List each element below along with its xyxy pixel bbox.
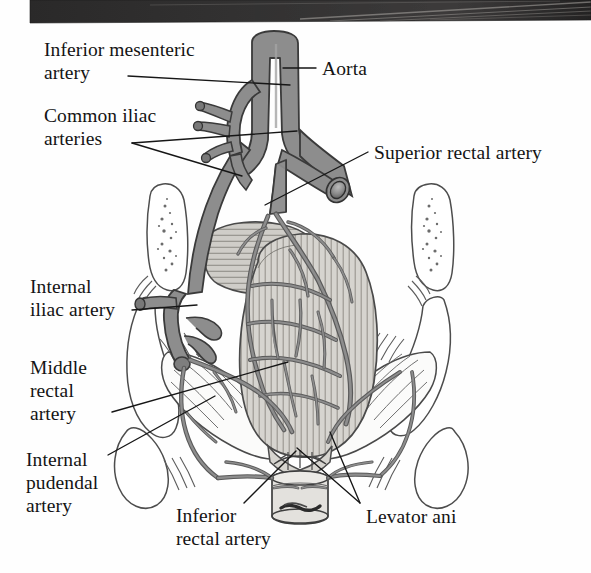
label-line: arteries	[44, 127, 156, 150]
label-line: rectal	[30, 379, 87, 402]
label-superior-rectal-artery: Superior rectal artery	[374, 141, 542, 164]
label-inferior-mesenteric-artery: Inferior mesentericartery	[44, 38, 195, 84]
scan-edge-band	[30, 0, 591, 23]
label-line: Inferior	[176, 504, 271, 527]
label-internal-pudendal-artery: Internalpudendalartery	[26, 448, 98, 517]
bone-right-upper	[412, 184, 454, 291]
label-inferior-rectal-artery: Inferiorrectal artery	[176, 504, 271, 550]
label-line: Common iliac	[44, 104, 156, 127]
bone-left-upper	[147, 184, 188, 291]
label-line: Aorta	[322, 57, 367, 80]
label-line: Internal	[26, 448, 98, 471]
label-line: artery	[44, 61, 195, 84]
figure-canvas: Inferior mesentericarteryAortaCommon ili…	[0, 0, 591, 573]
label-levator-ani: Levator ani	[366, 505, 456, 528]
label-line: Inferior mesenteric	[44, 38, 195, 61]
label-line: Levator ani	[366, 505, 456, 528]
label-line: iliac artery	[30, 298, 115, 321]
label-aorta: Aorta	[322, 57, 367, 80]
label-line: rectal artery	[176, 527, 271, 550]
label-line: Middle	[30, 356, 87, 379]
label-common-iliac-arteries: Common iliacarteries	[44, 104, 156, 150]
label-line: Superior rectal artery	[374, 141, 542, 164]
label-internal-iliac-artery: Internaliliac artery	[30, 275, 115, 321]
label-line: artery	[30, 402, 87, 425]
label-line: artery	[26, 494, 98, 517]
label-line: pudendal	[26, 471, 98, 494]
label-middle-rectal-artery: Middlerectalartery	[30, 356, 87, 425]
label-line: Internal	[30, 275, 115, 298]
